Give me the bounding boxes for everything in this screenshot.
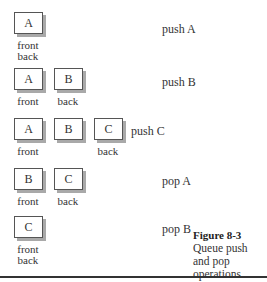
queue-element-a: A bbox=[14, 68, 43, 90]
operation-label-push-b: push B bbox=[162, 75, 196, 90]
back-label: back bbox=[50, 196, 86, 207]
queue-element-c: C bbox=[94, 118, 123, 140]
back-label: back bbox=[90, 146, 126, 157]
back-label: back bbox=[10, 51, 46, 62]
queue-element-b: B bbox=[54, 68, 83, 90]
queue-element-b: B bbox=[54, 118, 83, 140]
operation-label-push-a: push A bbox=[162, 22, 196, 37]
bottom-rule bbox=[0, 276, 267, 278]
front-label: front bbox=[10, 96, 46, 107]
operation-label-push-c: push C bbox=[131, 124, 165, 139]
queue-element-a: A bbox=[14, 118, 43, 140]
back-label: back bbox=[50, 96, 86, 107]
front-label: front bbox=[10, 146, 46, 157]
figure-number: Figure 8-3 bbox=[193, 229, 241, 241]
queue-element-b: B bbox=[14, 168, 43, 190]
front-label: front bbox=[10, 196, 46, 207]
queue-element-a: A bbox=[14, 12, 43, 34]
operation-label-pop-b: pop B bbox=[162, 222, 191, 237]
operation-label-pop-a: pop A bbox=[162, 174, 191, 189]
back-label: back bbox=[10, 255, 46, 266]
queue-element-c: C bbox=[14, 216, 43, 238]
queue-element-c: C bbox=[54, 168, 83, 190]
